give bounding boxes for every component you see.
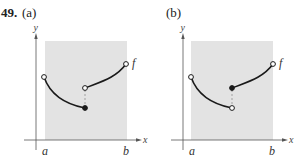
interval-end-a: b	[123, 144, 129, 158]
x-axis-label-a: x	[142, 134, 148, 145]
open-circle-icon	[189, 75, 194, 80]
graphs: y x a b f y x a b	[0, 0, 297, 161]
closed-dot-icon	[83, 106, 88, 111]
interval-start-a: a	[42, 144, 48, 158]
y-axis-arrow-icon	[34, 33, 37, 39]
x-axis-arrow-icon	[282, 138, 288, 141]
graph-b: y x a b f	[171, 22, 294, 158]
open-circle-icon	[124, 62, 129, 67]
y-axis-label-a: y	[33, 22, 39, 33]
open-circle-icon	[83, 86, 88, 91]
x-axis-arrow-icon	[136, 138, 142, 141]
y-axis-label-b: y	[180, 22, 186, 33]
interval-start-b: a	[189, 144, 195, 158]
y-axis-arrow-icon	[181, 33, 184, 39]
graph-a: y x a b f	[24, 22, 148, 158]
function-label-b: f	[279, 56, 284, 70]
closed-dot-icon	[230, 86, 235, 91]
open-circle-icon	[42, 75, 47, 80]
open-circle-icon	[271, 62, 276, 67]
interval-end-b: b	[269, 144, 275, 158]
open-circle-icon	[230, 106, 235, 111]
x-axis-label-b: x	[288, 134, 294, 145]
function-label-a: f	[132, 56, 137, 70]
